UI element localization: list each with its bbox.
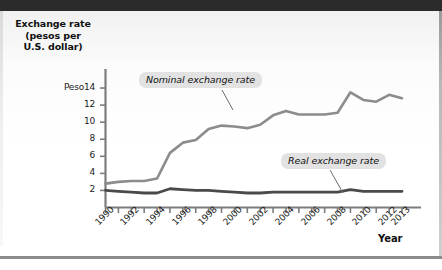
- y-axis-title-line-1: Exchange rate: [6, 18, 100, 30]
- callout-real-exchange-rate: Real exchange rate: [281, 153, 386, 169]
- y-tick-label-2: 2: [35, 184, 95, 194]
- x-axis-title: Year: [378, 233, 430, 245]
- y-tick-label-4: 4: [35, 167, 95, 177]
- y-tick-label-14: Peso14: [35, 82, 95, 92]
- y-tick-label-6: 6: [35, 150, 95, 160]
- y-tick-label-12: 12: [35, 99, 95, 109]
- axes-group: [106, 69, 422, 208]
- y-axis-title-line-3: U.S. dollar): [6, 41, 100, 53]
- y-axis-title: Exchange rate (pesos per U.S. dollar): [6, 18, 100, 53]
- bottom-margin: [0, 259, 442, 270]
- y-tick-label-10: 10: [35, 116, 95, 126]
- top-dark-bar: [0, 0, 442, 11]
- callout-leader-lines: [222, 90, 343, 193]
- y-axis-title-line-2: (pesos per: [6, 30, 100, 42]
- line-chart: Exchange rate (pesos per U.S. dollar) Ye…: [0, 11, 442, 256]
- data-series-group: [106, 92, 403, 193]
- callout-nominal-exchange-rate: Nominal exchange rate: [139, 72, 262, 88]
- figure-container: Exchange rate (pesos per U.S. dollar) Ye…: [0, 0, 442, 270]
- y-tick-label-8: 8: [35, 133, 95, 143]
